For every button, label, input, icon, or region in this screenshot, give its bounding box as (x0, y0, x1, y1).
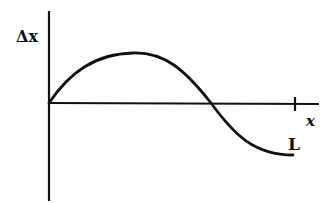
displacement-diagram: Δx x L (0, 0, 334, 203)
x-axis (48, 103, 319, 104)
y-axis-label: Δx (16, 27, 38, 46)
tick-label-L: L (288, 134, 300, 154)
x-axis-label: x (305, 112, 316, 130)
